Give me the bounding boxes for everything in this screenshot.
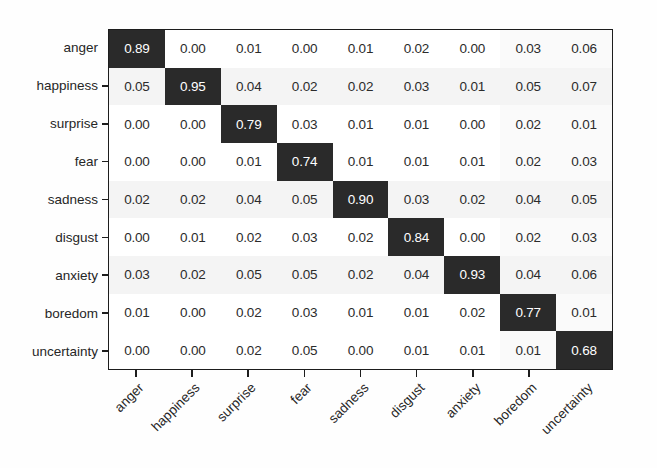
matrix-cell: 0.03 bbox=[388, 68, 444, 106]
y-axis-label: anger bbox=[0, 29, 101, 67]
y-axis-tick bbox=[101, 67, 108, 105]
confusion-matrix-grid: 0.890.000.010.000.010.020.000.030.060.05… bbox=[109, 30, 612, 369]
matrix-cell: 0.01 bbox=[444, 143, 500, 181]
matrix-cell: 0.02 bbox=[221, 218, 277, 256]
y-axis-tick bbox=[101, 143, 108, 181]
matrix-cell: 0.03 bbox=[500, 30, 556, 68]
matrix-cell: 0.00 bbox=[165, 143, 221, 181]
matrix-cell: 0.03 bbox=[388, 181, 444, 219]
matrix-cell: 0.05 bbox=[221, 256, 277, 294]
matrix-cell: 0.02 bbox=[444, 181, 500, 219]
matrix-cell: 0.01 bbox=[333, 143, 389, 181]
y-axis-tick bbox=[101, 105, 108, 143]
matrix-cell-diagonal: 0.93 bbox=[444, 256, 500, 294]
matrix-cell: 0.00 bbox=[109, 331, 165, 369]
y-axis-label: fear bbox=[0, 143, 101, 181]
y-axis-label: happiness bbox=[0, 67, 101, 105]
matrix-cell: 0.02 bbox=[333, 68, 389, 106]
matrix-cell-diagonal: 0.68 bbox=[556, 331, 612, 369]
x-axis-tick bbox=[220, 370, 276, 378]
matrix-cell-diagonal: 0.74 bbox=[277, 143, 333, 181]
matrix-cell: 0.03 bbox=[277, 294, 333, 332]
matrix-cell: 0.01 bbox=[221, 30, 277, 68]
matrix-cell: 0.04 bbox=[500, 256, 556, 294]
y-axis-label: surprise bbox=[0, 105, 101, 143]
matrix-cell: 0.00 bbox=[444, 30, 500, 68]
matrix-cell: 0.03 bbox=[277, 218, 333, 256]
matrix-cell: 0.06 bbox=[556, 256, 612, 294]
y-axis-tick bbox=[101, 218, 108, 256]
x-axis-tick bbox=[557, 370, 613, 378]
matrix-cell: 0.01 bbox=[109, 294, 165, 332]
matrix-cell: 0.01 bbox=[388, 143, 444, 181]
matrix-cell: 0.01 bbox=[500, 331, 556, 369]
matrix-cell: 0.00 bbox=[165, 331, 221, 369]
y-axis-tick bbox=[101, 181, 108, 219]
x-axis-tick bbox=[445, 370, 501, 378]
matrix-cell: 0.02 bbox=[277, 68, 333, 106]
matrix-cell: 0.01 bbox=[388, 294, 444, 332]
matrix-cell: 0.01 bbox=[388, 331, 444, 369]
y-axis-label: sadness bbox=[0, 181, 101, 219]
matrix-cell: 0.00 bbox=[165, 105, 221, 143]
matrix-cell: 0.00 bbox=[109, 218, 165, 256]
matrix-cell: 0.01 bbox=[165, 218, 221, 256]
matrix-cell: 0.02 bbox=[333, 218, 389, 256]
heatmap-plot-area: 0.890.000.010.000.010.020.000.030.060.05… bbox=[108, 29, 613, 370]
matrix-cell: 0.04 bbox=[221, 68, 277, 106]
x-axis-tick bbox=[164, 370, 220, 378]
matrix-cell: 0.02 bbox=[109, 181, 165, 219]
y-axis-label: uncertainty bbox=[0, 332, 101, 370]
matrix-cell: 0.03 bbox=[109, 256, 165, 294]
matrix-cell: 0.02 bbox=[500, 218, 556, 256]
matrix-cell: 0.01 bbox=[388, 105, 444, 143]
matrix-cell: 0.00 bbox=[333, 331, 389, 369]
matrix-cell: 0.04 bbox=[221, 181, 277, 219]
matrix-cell: 0.01 bbox=[444, 331, 500, 369]
matrix-cell: 0.03 bbox=[556, 143, 612, 181]
matrix-cell-diagonal: 0.89 bbox=[109, 30, 165, 68]
matrix-cell: 0.05 bbox=[277, 331, 333, 369]
x-axis-labels: angerhappinesssurprisefearsadnessdisgust… bbox=[108, 378, 613, 468]
x-axis-tick bbox=[389, 370, 445, 378]
matrix-cell: 0.03 bbox=[556, 218, 612, 256]
matrix-cell: 0.00 bbox=[277, 30, 333, 68]
matrix-cell: 0.00 bbox=[165, 30, 221, 68]
matrix-cell: 0.02 bbox=[221, 331, 277, 369]
matrix-cell: 0.05 bbox=[556, 181, 612, 219]
matrix-cell: 0.01 bbox=[333, 294, 389, 332]
x-axis-tick bbox=[276, 370, 332, 378]
matrix-cell: 0.05 bbox=[109, 68, 165, 106]
matrix-cell: 0.00 bbox=[109, 143, 165, 181]
matrix-cell: 0.00 bbox=[444, 105, 500, 143]
y-axis-label: disgust bbox=[0, 218, 101, 256]
matrix-cell-diagonal: 0.77 bbox=[500, 294, 556, 332]
y-axis-label: anxiety bbox=[0, 256, 101, 294]
matrix-cell: 0.01 bbox=[221, 143, 277, 181]
matrix-cell: 0.01 bbox=[556, 105, 612, 143]
matrix-cell: 0.02 bbox=[444, 294, 500, 332]
matrix-cell: 0.00 bbox=[109, 105, 165, 143]
matrix-cell: 0.01 bbox=[333, 30, 389, 68]
matrix-cell: 0.01 bbox=[333, 105, 389, 143]
matrix-cell: 0.00 bbox=[444, 218, 500, 256]
matrix-cell: 0.03 bbox=[277, 105, 333, 143]
matrix-cell-diagonal: 0.90 bbox=[333, 181, 389, 219]
matrix-cell: 0.02 bbox=[165, 256, 221, 294]
x-axis-tick bbox=[332, 370, 388, 378]
matrix-cell-diagonal: 0.79 bbox=[221, 105, 277, 143]
y-axis-tick bbox=[101, 29, 108, 67]
matrix-cell: 0.02 bbox=[388, 30, 444, 68]
matrix-cell: 0.07 bbox=[556, 68, 612, 106]
x-axis-ticks bbox=[108, 370, 613, 378]
matrix-cell: 0.02 bbox=[500, 143, 556, 181]
x-axis-tick bbox=[501, 370, 557, 378]
matrix-cell: 0.01 bbox=[444, 68, 500, 106]
y-axis-tick bbox=[101, 294, 108, 332]
matrix-cell: 0.00 bbox=[165, 294, 221, 332]
matrix-cell: 0.05 bbox=[277, 181, 333, 219]
matrix-cell: 0.05 bbox=[500, 68, 556, 106]
matrix-cell: 0.05 bbox=[277, 256, 333, 294]
y-axis-label: boredom bbox=[0, 294, 101, 332]
matrix-cell: 0.01 bbox=[556, 294, 612, 332]
